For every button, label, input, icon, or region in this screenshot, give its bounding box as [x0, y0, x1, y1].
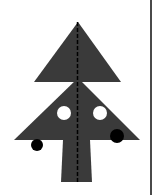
- white-ornament-circle: [57, 106, 71, 120]
- black-ornament-circle: [31, 139, 43, 151]
- tree-diagram: [0, 0, 156, 195]
- tree-trunk: [61, 140, 92, 182]
- frame-right-border: [150, 0, 152, 195]
- white-ornament-circle: [93, 106, 107, 120]
- black-ornament-circle: [110, 129, 124, 143]
